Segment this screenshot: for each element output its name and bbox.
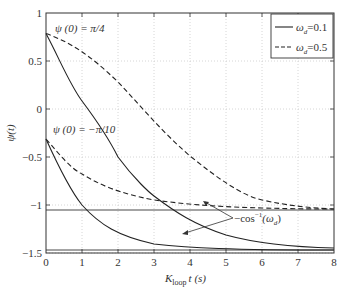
svg-text:0.5: 0.5 [28, 55, 42, 67]
chart: 0 1 2 3 4 5 6 7 8 1 0.5 0 −0.5 −1 −1.5 K… [0, 0, 345, 288]
svg-text:1: 1 [37, 7, 43, 19]
legend: ωd=0.1 ωd=0.5 [271, 14, 333, 58]
curve-solid-pi10 [46, 139, 334, 250]
annotation-psi-pi10: ψ (0) = −π/10 [53, 123, 116, 136]
svg-text:−cos−1(ωd): −cos−1(ωd) [234, 211, 281, 227]
svg-text:5: 5 [223, 256, 229, 268]
svg-text:−0.5: −0.5 [22, 151, 42, 163]
svg-text:0: 0 [37, 103, 43, 115]
svg-text:1: 1 [79, 256, 85, 268]
y-axis-label: ψ(t) [4, 124, 17, 142]
y-tick-labels: 1 0.5 0 −0.5 −1 −1.5 [22, 7, 42, 259]
svg-text:3: 3 [151, 256, 157, 268]
svg-text:2: 2 [115, 256, 121, 268]
svg-text:7: 7 [295, 256, 301, 268]
curve-dashed-pi10 [46, 139, 334, 209]
svg-text:−1: −1 [30, 199, 42, 211]
svg-text:6: 6 [259, 256, 265, 268]
cos-annotation: −cos−1(ωd) [182, 201, 281, 235]
x-axis-label: Kloopt (s) [164, 272, 206, 287]
svg-text:4: 4 [187, 256, 193, 268]
curve-solid-pi4 [46, 34, 334, 248]
svg-text:0: 0 [43, 256, 49, 268]
annotation-psi-pi4: ψ (0) = π/4 [55, 22, 105, 35]
svg-text:−1.5: −1.5 [22, 247, 42, 259]
svg-text:8: 8 [331, 256, 337, 268]
x-tick-labels: 0 1 2 3 4 5 6 7 8 [43, 256, 337, 268]
